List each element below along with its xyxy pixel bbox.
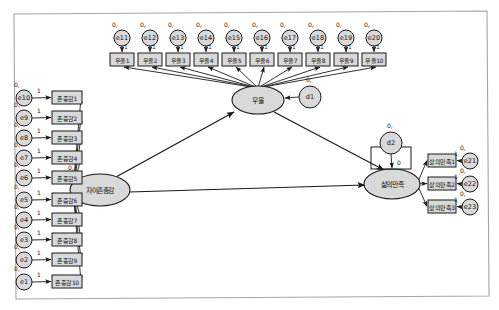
path-arrow — [208, 67, 258, 88]
node-layer — [16, 30, 478, 290]
indicator-box-존중감9[interactable] — [52, 253, 82, 266]
error-term-e19[interactable] — [338, 30, 354, 46]
error-term-e9[interactable] — [16, 110, 32, 126]
path-arrow — [32, 98, 51, 99]
path-arrow — [274, 112, 384, 170]
path-arrow — [457, 184, 462, 185]
error-term-e14[interactable] — [198, 30, 214, 46]
path-arrow — [32, 138, 51, 139]
path-arrow — [32, 260, 51, 261]
path-arrow — [32, 200, 51, 201]
path-arrow — [32, 118, 51, 119]
indicator-box-존중감2[interactable] — [52, 111, 82, 124]
error-term-e11[interactable] — [114, 30, 130, 46]
error-term-e23[interactable] — [462, 199, 478, 215]
path-arrow — [258, 67, 348, 88]
error-term-e22[interactable] — [462, 176, 478, 192]
indicator-box-삶의만족2[interactable] — [428, 177, 456, 190]
error-term-e1[interactable] — [16, 274, 32, 290]
error-term-e8[interactable] — [16, 130, 32, 146]
path-arrow — [32, 220, 51, 221]
path-arrow — [457, 161, 462, 162]
error-term-e13[interactable] — [170, 30, 186, 46]
indicator-box-우울7[interactable] — [278, 53, 302, 66]
path-arrow — [285, 97, 299, 98]
indicator-box-우울1[interactable] — [110, 53, 134, 66]
path-arrow — [457, 207, 462, 208]
error-term-e16[interactable] — [254, 30, 270, 46]
error-term-e20[interactable] — [366, 30, 382, 46]
error-term-e18[interactable] — [310, 30, 326, 46]
error-term-e10[interactable] — [16, 90, 32, 106]
path-arrow — [152, 67, 258, 88]
error-term-e17[interactable] — [282, 30, 298, 46]
disturbance-d1[interactable] — [299, 86, 321, 108]
latent-depression[interactable] — [232, 86, 284, 114]
path-arrow — [32, 282, 51, 283]
path-arrow — [129, 185, 365, 192]
indicator-box-존중감8[interactable] — [52, 233, 82, 246]
path-arrow — [32, 158, 51, 159]
edge-layer — [32, 46, 462, 282]
error-term-e5[interactable] — [16, 192, 32, 208]
error-term-e2[interactable] — [16, 252, 32, 268]
path-arrow — [32, 178, 51, 179]
indicator-box-우울6[interactable] — [250, 53, 274, 66]
indicator-box-우울4[interactable] — [194, 53, 218, 66]
indicator-box-우울2[interactable] — [138, 53, 162, 66]
indicator-box-존중감4[interactable] — [52, 151, 82, 164]
indicator-box-존중감7[interactable] — [52, 213, 82, 226]
indicator-box-우울3[interactable] — [166, 53, 190, 66]
indicator-box-우울9[interactable] — [334, 53, 358, 66]
error-term-e4[interactable] — [16, 212, 32, 228]
diagram-svg — [0, 0, 499, 310]
indicator-box-존중감6[interactable] — [52, 193, 82, 206]
path-arrow — [391, 154, 392, 168]
error-term-e3[interactable] — [16, 232, 32, 248]
indicator-box-삶의만족1[interactable] — [428, 154, 456, 167]
latent-lifesat[interactable] — [364, 169, 420, 199]
indicator-box-우울5[interactable] — [222, 53, 246, 66]
indicator-box-삶의만족3[interactable] — [428, 200, 456, 213]
error-term-e7[interactable] — [16, 150, 32, 166]
error-term-e12[interactable] — [142, 30, 158, 46]
path-diagram-canvas: 자아존중감0,우울삶의만족우울1e110,1우울2e120,1우울3e130,1… — [0, 0, 499, 310]
path-arrow — [116, 112, 234, 177]
error-term-e21[interactable] — [462, 153, 478, 169]
error-term-e15[interactable] — [226, 30, 242, 46]
indicator-box-존중감5[interactable] — [52, 171, 82, 184]
indicator-box-우울10[interactable] — [362, 53, 386, 66]
disturbance-d2[interactable] — [380, 132, 402, 154]
error-term-e6[interactable] — [16, 170, 32, 186]
path-arrow — [258, 67, 320, 88]
indicator-box-존중감1[interactable] — [52, 91, 82, 104]
indicator-box-존중감10[interactable] — [52, 275, 82, 288]
path-arrow — [32, 240, 51, 241]
indicator-box-존중감3[interactable] — [52, 131, 82, 144]
indicator-box-우울8[interactable] — [306, 53, 330, 66]
